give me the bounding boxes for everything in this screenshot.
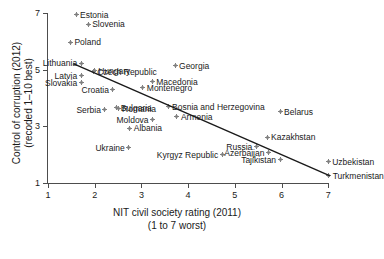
x-tick-mark — [235, 184, 236, 188]
x-tick-mark — [282, 184, 283, 188]
data-point-marker — [326, 159, 331, 164]
data-point-label: Romania — [122, 104, 156, 113]
data-point-marker — [278, 157, 283, 162]
x-tick-mark — [48, 184, 49, 188]
data-point-marker — [126, 145, 131, 150]
data-point-marker — [79, 61, 84, 66]
data-point-label: Slovakia — [45, 78, 77, 87]
data-point-label: Kyrgyz Republic — [157, 150, 218, 159]
y-tick-mark — [43, 70, 47, 71]
data-point-label: Armenia — [181, 112, 213, 121]
x-tick-label: 6 — [279, 190, 284, 200]
data-point-label: Kazakhstan — [271, 133, 315, 142]
x-tick-label: 1 — [45, 190, 50, 200]
x-tick-label: 7 — [326, 190, 331, 200]
data-point-marker — [127, 126, 132, 131]
x-tick-mark — [328, 184, 329, 188]
x-tick-label: 4 — [186, 190, 191, 200]
data-point-marker — [116, 106, 121, 111]
data-point-label: Poland — [74, 38, 100, 47]
data-point-marker — [68, 40, 73, 45]
y-tick-mark — [43, 183, 47, 184]
x-tick-label: 5 — [232, 190, 237, 200]
data-point-label: Tajikistan — [241, 155, 276, 164]
data-point-marker — [278, 109, 283, 114]
data-point-label: Croatia — [82, 85, 109, 94]
data-point-label: Slovenia — [92, 20, 125, 29]
x-tick-mark — [95, 184, 96, 188]
y-axis-title: Control of corruption (2012) (recoded 1–… — [11, 8, 35, 198]
x-tick-mark — [188, 184, 189, 188]
data-point-marker — [140, 85, 145, 90]
data-point-marker — [110, 87, 115, 92]
data-point-label: Belarus — [284, 107, 313, 116]
y-tick-mark — [43, 126, 47, 127]
y-axis-title-line2: (recoded 1–10 best) — [23, 8, 35, 198]
y-tick-mark — [43, 13, 47, 14]
data-point-marker — [150, 79, 155, 84]
data-point-label: Georgia — [179, 61, 209, 70]
data-point-marker — [74, 12, 79, 17]
data-point-marker — [86, 22, 91, 27]
data-point-marker — [79, 73, 84, 78]
data-point-label: Albania — [134, 124, 162, 133]
data-point-marker — [174, 114, 179, 119]
x-axis-title: NIT civil society rating (2011) (1 to 7 … — [0, 207, 354, 232]
data-point-label: Ukraine — [95, 143, 124, 152]
data-point-label: Lithuania — [43, 59, 78, 68]
data-point-marker — [326, 173, 331, 178]
data-point-label: Serbia — [76, 105, 101, 114]
data-point-marker — [166, 104, 171, 109]
data-point-label: Bosnia and Herzegovina — [172, 102, 265, 111]
data-point-marker — [91, 69, 96, 74]
y-axis-title-line1: Control of corruption (2012) — [11, 8, 23, 198]
data-point-label: Czech Republic — [97, 67, 157, 76]
x-tick-mark — [141, 184, 142, 188]
x-axis-title-line1: NIT civil society rating (2011) — [113, 207, 241, 218]
data-point-marker — [102, 107, 107, 112]
x-axis-title-line2: (1 to 7 worst) — [0, 220, 354, 233]
data-point-label: Uzbekistan — [332, 157, 374, 166]
x-tick-label: 3 — [139, 190, 144, 200]
data-point-marker — [173, 63, 178, 68]
data-point-label: Macedonia — [156, 77, 198, 86]
data-point-label: Turkmenistan — [333, 171, 384, 180]
x-tick-label: 2 — [92, 190, 97, 200]
data-point-marker — [265, 135, 270, 140]
y-axis-line — [47, 13, 48, 183]
